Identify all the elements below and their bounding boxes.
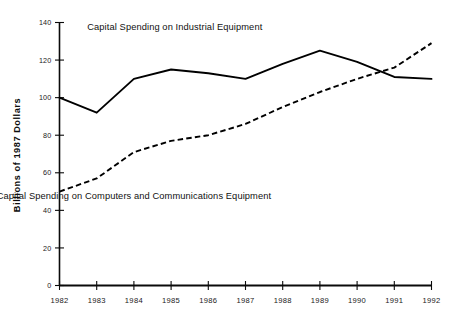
- series-annotation-1: Capital Spending on Computers and Commun…: [0, 191, 271, 201]
- series-annotations: Capital Spending on Industrial Equipment…: [0, 22, 271, 201]
- chart-figure: Billions of 1987 Dollars 020406080100120…: [0, 0, 459, 324]
- x-tick-label: 1991: [385, 296, 403, 305]
- y-tick-label: 120: [39, 56, 52, 65]
- series-line-computers-communications: [60, 43, 432, 191]
- x-tick-label: 1983: [88, 296, 106, 305]
- y-tick-label: 140: [39, 18, 52, 27]
- x-tick-label: 1989: [311, 296, 329, 305]
- y-tick-label: 0: [47, 281, 51, 290]
- series-line-industrial-equipment: [60, 51, 432, 113]
- y-tick-label: 100: [39, 93, 52, 102]
- x-tick-label: 1985: [162, 296, 180, 305]
- y-tick-label: 60: [43, 168, 51, 177]
- x-tick-label: 1986: [199, 296, 217, 305]
- x-tick-label: 1992: [422, 296, 440, 305]
- x-tick-label: 1984: [125, 296, 143, 305]
- y-tick-label: 40: [43, 206, 51, 215]
- x-axis-ticks: 1982198319841985198619871988198919901991…: [50, 281, 440, 305]
- x-tick-label: 1990: [348, 296, 366, 305]
- series-annotation-0: Capital Spending on Industrial Equipment: [87, 22, 262, 32]
- y-tick-label: 20: [43, 244, 51, 253]
- x-tick-label: 1987: [236, 296, 254, 305]
- y-tick-label: 80: [43, 131, 51, 140]
- line-chart: Billions of 1987 Dollars 020406080100120…: [0, 0, 459, 324]
- x-tick-label: 1982: [50, 296, 68, 305]
- x-tick-label: 1988: [274, 296, 292, 305]
